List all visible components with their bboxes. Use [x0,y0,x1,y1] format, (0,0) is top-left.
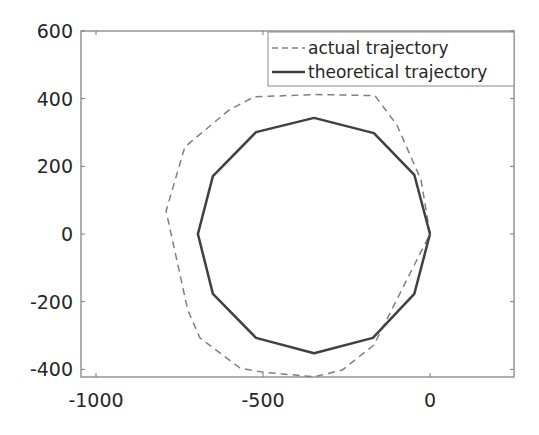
legend-label-theoretical: theoretical trajectory [308,62,487,82]
trajectory-chart: -1000-5000 -400-2000200400600 actual tra… [0,0,539,435]
y-tick-label: 200 [37,155,73,177]
x-tick-label: 0 [424,389,436,411]
y-tick-label: -400 [30,358,73,380]
legend: actual trajectory theoretical trajectory [268,32,514,86]
y-tick-label: 600 [37,20,73,42]
y-tick-label: -200 [30,291,73,313]
x-tick-label: -1000 [68,389,123,411]
legend-label-actual: actual trajectory [308,38,448,58]
y-tick-label: 400 [37,88,73,110]
y-tick-label: 0 [61,223,73,245]
x-tick-label: -500 [241,389,284,411]
